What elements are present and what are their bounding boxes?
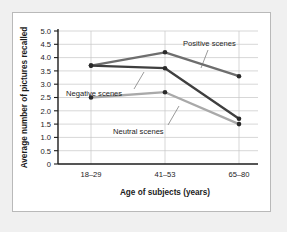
data-point-positive-3 [237,74,242,79]
data-point-neutral-3 [237,122,242,127]
x-tick-label-1: 18–29 [80,170,101,179]
y-tick-label: 1.0 [40,133,51,142]
y-tick-label: 2.5 [40,93,51,102]
data-point-positive-2 [163,50,168,55]
leader-line-negative [134,72,144,89]
y-tick-label: 4.5 [40,40,51,49]
y-tick-label: 4.0 [40,53,51,62]
data-point-negative-2 [163,66,168,71]
series-annotation-neutral: Neutral scenes [113,127,164,136]
y-tick-labels: 5.0 4.5 4.0 3.5 3.0 2.5 2.0 1.5 1.0 0.5 … [40,27,51,169]
x-tick-label-3: 65–80 [228,170,249,179]
plot-area: 5.0 4.5 4.0 3.5 3.0 2.5 2.0 1.5 1.0 0.5 … [13,13,270,211]
line-chart: 5.0 4.5 4.0 3.5 3.0 2.5 2.0 1.5 1.0 0.5 … [13,13,272,213]
data-point-neutral-2 [163,90,168,95]
leader-line-neutral [168,106,179,125]
y-tick-label: 0 [47,160,51,169]
x-tick-labels: 18–29 41–53 65–80 [80,170,249,179]
y-tick-label: 0.5 [40,147,51,156]
y-tick-label: 2.0 [40,107,51,116]
y-axis-title: Average number of pictures recalled [20,27,29,169]
series-annotation-positive: Positive scenes [183,39,236,48]
chart-figure-frame: 5.0 4.5 4.0 3.5 3.0 2.5 2.0 1.5 1.0 0.5 … [12,12,271,212]
y-tick-label: 3.5 [40,67,51,76]
x-tick-label-2: 41–53 [154,170,175,179]
data-point-negative-3 [237,117,242,122]
y-tick-label: 1.5 [40,120,51,129]
y-tick-label: 3.0 [40,80,51,89]
x-axis-title: Age of subjects (years) [120,188,210,197]
y-tick-label: 5.0 [40,27,51,36]
series-annotation-negative: Negative scenes [66,89,122,98]
data-point-negative-1 [89,63,94,68]
